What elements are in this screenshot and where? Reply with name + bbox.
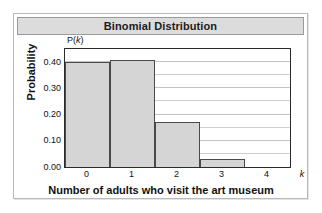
y-tick-label: 0.00 bbox=[15, 162, 61, 172]
bars-layer bbox=[65, 49, 290, 167]
bar bbox=[65, 62, 110, 167]
chart-title: Binomial Distribution bbox=[104, 20, 217, 32]
x-tick-label: 2 bbox=[174, 169, 179, 179]
x-tick-label: 4 bbox=[264, 169, 269, 179]
figure-container: Binomial Distribution P(k) Probability 0… bbox=[13, 13, 308, 199]
y-axis-tick-labels: 0.000.100.200.300.40 bbox=[14, 48, 61, 167]
y-tick-label: 0.10 bbox=[15, 135, 61, 145]
plot-area bbox=[64, 48, 291, 168]
x-axis-tick-labels: 01234k bbox=[64, 169, 291, 183]
y-axis-symbol-label: P(k) bbox=[67, 35, 84, 45]
y-tick-label: 0.30 bbox=[15, 83, 61, 93]
x-tick-label: 3 bbox=[219, 169, 224, 179]
y-tick-label: 0.20 bbox=[15, 109, 61, 119]
bar bbox=[110, 60, 155, 168]
y-tick-label: 0.40 bbox=[15, 57, 61, 67]
bar bbox=[155, 122, 200, 167]
x-tick-label: 0 bbox=[84, 169, 89, 179]
x-axis-symbol-label: k bbox=[300, 169, 305, 179]
x-tick-label: 1 bbox=[129, 169, 134, 179]
x-axis-title: Number of adults who visit the art museu… bbox=[28, 184, 294, 196]
chart-title-bar: Binomial Distribution bbox=[17, 17, 304, 35]
bar bbox=[200, 159, 245, 167]
